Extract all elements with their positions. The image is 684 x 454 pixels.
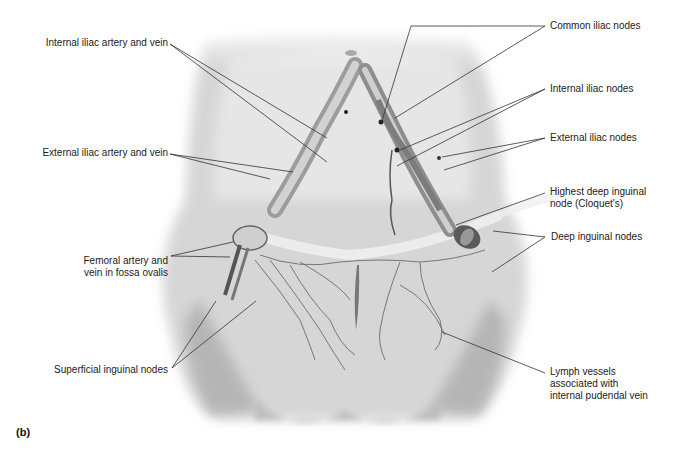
label-internal-iliac-artery-vein: Internal iliac artery and vein <box>46 37 168 49</box>
panel-label: (b) <box>16 426 30 438</box>
label-femoral-line1: Femoral artery and <box>84 255 168 267</box>
label-highest-line1: Highest deep inguinal <box>550 186 646 198</box>
label-highest-deep-inguinal-node: Highest deep inguinal node (Cloquet's) <box>550 186 646 210</box>
label-lymph-line2: associated with <box>550 378 648 390</box>
label-external-iliac-artery-vein: External iliac artery and vein <box>42 147 168 159</box>
label-internal-iliac-nodes: Internal iliac nodes <box>550 83 633 95</box>
label-deep-inguinal-nodes: Deep inguinal nodes <box>551 231 642 243</box>
label-lymph-line1: Lymph vessels <box>550 366 648 378</box>
label-femoral-line2: vein in fossa ovalis <box>84 267 168 279</box>
label-femoral-artery-vein: Femoral artery and vein in fossa ovalis <box>84 255 168 279</box>
label-external-iliac-nodes: External iliac nodes <box>550 132 637 144</box>
label-lymph-line3: internal pudendal vein <box>550 390 648 402</box>
label-lymph-vessels-pudendal: Lymph vessels associated with internal p… <box>550 366 648 402</box>
label-highest-line2: node (Cloquet's) <box>550 198 646 210</box>
anatomy-figure: Internal iliac artery and vein External … <box>0 0 684 454</box>
label-superficial-inguinal-nodes: Superficial inguinal nodes <box>54 364 168 376</box>
label-common-iliac-nodes: Common iliac nodes <box>550 20 641 32</box>
